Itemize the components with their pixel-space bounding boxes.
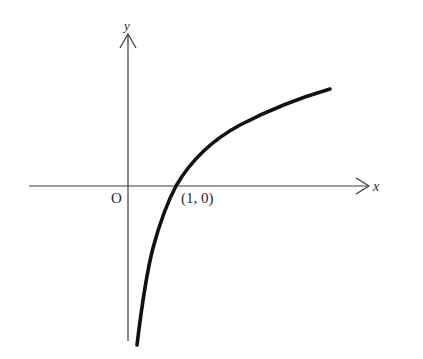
point-label-1-0: (1, 0): [181, 190, 214, 207]
y-axis-label: y: [122, 18, 130, 33]
log-curve: [137, 89, 330, 345]
graph-canvas: y x O (1, 0): [0, 0, 423, 359]
origin-label: O: [111, 190, 122, 206]
x-axis-label: x: [372, 179, 380, 194]
